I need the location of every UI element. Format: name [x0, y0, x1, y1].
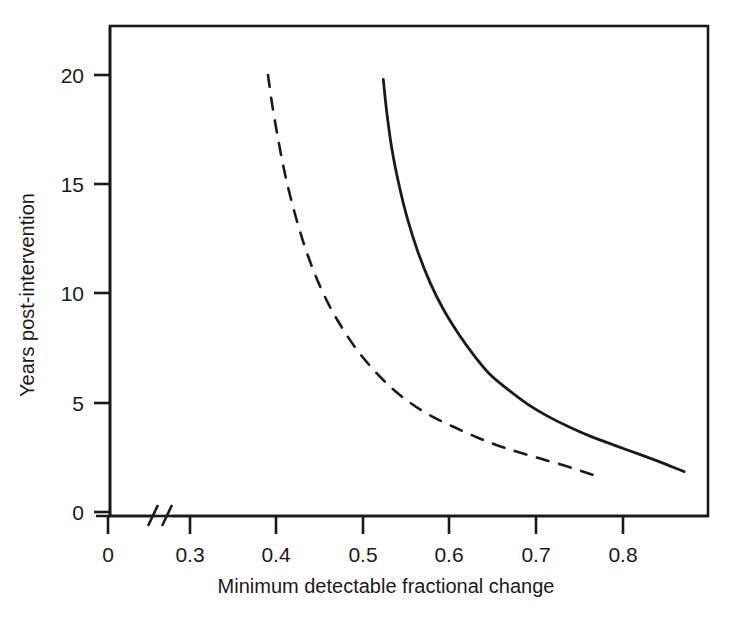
chart-plot-area: 20 15 10 5 0 Years post-intervention — [0, 0, 742, 621]
plot-frame — [110, 26, 708, 516]
x-tick-label-0.8: 0.8 — [608, 543, 637, 566]
x-tick-label-0.4: 0.4 — [261, 543, 291, 566]
y-tick-label-0: 0 — [72, 501, 84, 524]
y-tick-label-15: 15 — [61, 173, 84, 196]
y-tick-label-10: 10 — [61, 282, 84, 305]
x-tick-label-0.5: 0.5 — [348, 543, 377, 566]
x-tick-label-0.7: 0.7 — [521, 543, 550, 566]
y-axis: 20 15 10 5 0 Years post-intervention — [16, 26, 110, 524]
x-axis-title: Minimum detectable fractional change — [218, 575, 555, 597]
x-tick-label-0: 0 — [102, 543, 114, 566]
y-axis-title: Years post-intervention — [16, 193, 38, 397]
chart-figure: 20 15 10 5 0 Years post-intervention — [0, 0, 742, 621]
x-tick-label-0.3: 0.3 — [175, 543, 204, 566]
y-tick-label-5: 5 — [72, 392, 84, 415]
y-tick-label-20: 20 — [61, 64, 84, 87]
x-tick-label-0.6: 0.6 — [434, 543, 463, 566]
x-axis: 0 0.3 0.4 0.5 0.6 0.7 0.8 Minimum detect… — [96, 505, 708, 597]
series-solid-curve — [383, 79, 684, 471]
data-series-group — [268, 75, 684, 475]
